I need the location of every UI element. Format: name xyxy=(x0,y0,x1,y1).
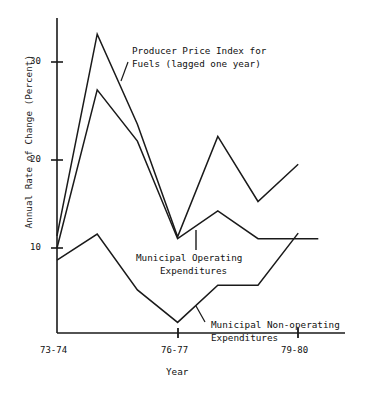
x-tick-label-73-74: 73-74 xyxy=(40,345,67,355)
y-tick-label-20: 20 xyxy=(30,154,41,164)
annotation-ppi-line1: Producer Price Index for xyxy=(132,45,266,58)
x-tick-label-79-80: 79-80 xyxy=(281,345,308,355)
series-line-municipal-operating xyxy=(57,90,318,248)
annotation-non-operating-line1: Municipal Non-operating xyxy=(211,319,340,332)
y-tick-label-10: 10 xyxy=(30,242,41,252)
leader-line-non-operating xyxy=(196,306,205,322)
x-tick-label-76-77: 76-77 xyxy=(161,345,188,355)
y-tick-label-30: 30 xyxy=(30,56,41,66)
leader-line-ppi xyxy=(121,62,128,81)
x-axis-title: Year xyxy=(166,366,188,377)
annotation-operating-line1: Municipal Operating xyxy=(136,252,242,265)
chart-figure: Annual Rate of Change (Percent) 30 20 10… xyxy=(0,0,375,394)
annotation-non-operating-line2: Expenditures xyxy=(211,332,278,345)
annotation-operating-line2: Expenditures xyxy=(160,265,227,278)
series-line-municipal-non-operating xyxy=(57,233,298,322)
annotation-ppi-line2: Fuels (lagged one year) xyxy=(132,58,261,71)
